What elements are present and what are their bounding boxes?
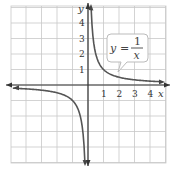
x-tick-label: 3	[132, 89, 138, 99]
y-tick-label: 2	[79, 49, 85, 59]
x-tick-label: 2	[117, 89, 123, 99]
y-tick-label: 1	[79, 65, 85, 75]
graph: 1234 1234 x y y = 1 x	[0, 0, 176, 172]
y-tick-label: 4	[79, 18, 85, 28]
y-tick-label: 3	[79, 34, 85, 44]
equation-callout: y = 1 x	[107, 34, 148, 72]
x-tick-labels: 1234	[101, 89, 154, 99]
x-axis-label: x	[158, 88, 164, 99]
equation-equals: =	[120, 42, 129, 55]
y-tick-labels: 1234	[79, 18, 85, 75]
equation-denominator: x	[134, 49, 141, 62]
equation-numerator: 1	[134, 35, 141, 48]
x-axis-arrow-left-icon	[6, 83, 12, 88]
curve-arrow-left-icon	[13, 85, 19, 90]
curve-negative-branch	[13, 88, 85, 162]
x-tick-label: 4	[148, 89, 154, 99]
x-axis-arrow-right-icon	[164, 83, 170, 88]
equation-lhs: y	[109, 42, 117, 55]
y-axis-label: y	[77, 3, 84, 14]
x-tick-label: 1	[101, 89, 107, 99]
